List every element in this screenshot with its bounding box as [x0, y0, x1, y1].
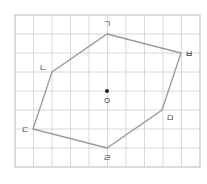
- label-digeut: ㄷ: [21, 125, 29, 135]
- label-center-ieung: ㅇ: [103, 96, 111, 106]
- label-rieul: ㄹ: [103, 153, 111, 163]
- label-bieup: ㅂ: [185, 49, 193, 59]
- point-symmetry-figure: ㄱ ㄴ ㄷ ㄹ ㅁ ㅂ ㅇ: [0, 0, 207, 184]
- center-point: [105, 89, 109, 93]
- label-mieum: ㅁ: [166, 113, 174, 123]
- label-giyeok: ㄱ: [103, 19, 111, 29]
- label-nieun: ㄴ: [39, 63, 47, 73]
